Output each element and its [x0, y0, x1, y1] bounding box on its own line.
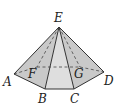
label-B: B	[37, 92, 47, 106]
label-F: F	[27, 67, 37, 81]
label-G: G	[74, 67, 84, 81]
label-C: C	[70, 92, 79, 106]
pyramid-diagram: E A B C D F G	[0, 0, 122, 110]
label-E: E	[53, 11, 63, 25]
pyramid-svg: E A B C D F G	[0, 0, 122, 110]
label-D: D	[103, 74, 114, 88]
label-A: A	[2, 75, 12, 89]
